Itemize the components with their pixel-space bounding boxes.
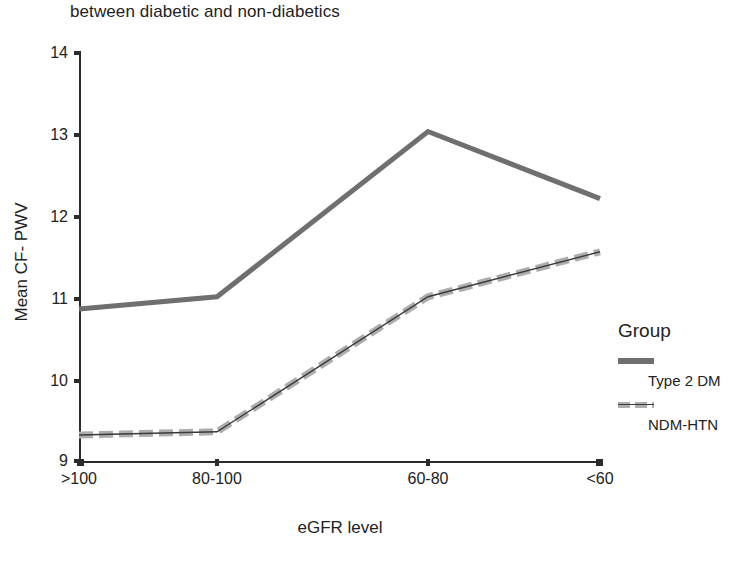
- legend-item-type-2-dm[interactable]: Type 2 DM: [618, 354, 749, 398]
- chart-plot-area: [0, 0, 749, 564]
- legend: Group Type 2 DM NDM-HTN: [618, 320, 749, 442]
- series-line-ndm-htn-fill: [79, 252, 600, 435]
- legend-swatch-dashed-icon: [618, 402, 654, 408]
- series-line-type-2-dm: [79, 132, 600, 310]
- legend-label-ndm-htn: NDM-HTN: [648, 416, 718, 433]
- legend-label-type-2-dm: Type 2 DM: [648, 372, 721, 389]
- series-line-ndm-htn: [79, 252, 600, 435]
- chart-figure: between diabetic and non-diabetics 14 13…: [0, 0, 749, 564]
- legend-swatch-solid-icon: [618, 358, 654, 364]
- legend-item-ndm-htn[interactable]: NDM-HTN: [618, 398, 749, 442]
- legend-title: Group: [618, 320, 749, 342]
